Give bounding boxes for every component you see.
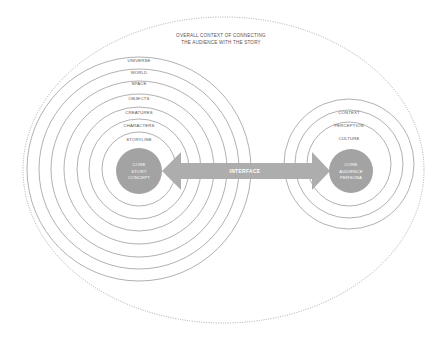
story-ring-labels: UNIVERSE WORLD SPACE OBJECTS CREATURES C… (123, 58, 154, 142)
core-audience-line-2: AUDIENCE (339, 169, 362, 174)
label-storyline: STORYLINE (126, 137, 152, 142)
story-audience-diagram: OVERALL CONTEXT OF CONNECTING THE AUDIEN… (0, 0, 444, 338)
title-line-1: OVERALL CONTEXT OF CONNECTING (176, 33, 266, 38)
label-perception: PERCEPTION (334, 123, 363, 128)
label-world: WORLD (131, 70, 148, 75)
label-creatures: CREATURES (125, 110, 153, 115)
core-story-line-1: CORE (132, 162, 145, 167)
core-story-concept: CORE STORY CONCEPT (116, 148, 162, 194)
interface-label: INTERFACE (229, 168, 260, 174)
core-story-line-2: STORY (131, 169, 146, 174)
label-characters: CHARACTERS (123, 123, 154, 128)
title-line-2: THE AUDIENCE WITH THE STORY (181, 40, 261, 45)
core-story-line-3: CONCEPT (128, 175, 150, 180)
audience-ring-labels: CONTEXT PERCEPTION CULTURE (334, 110, 363, 141)
core-audience-line-1: CORE (344, 162, 357, 167)
label-space: SPACE (132, 81, 147, 86)
interface-connector: INTERFACE (162, 152, 330, 190)
label-context: CONTEXT (338, 110, 360, 115)
core-audience-persona: CORE AUDIENCE PERSONA (329, 149, 373, 193)
label-objects: OBJECTS (129, 96, 150, 101)
label-universe: UNIVERSE (127, 58, 150, 63)
label-culture: CULTURE (338, 136, 359, 141)
diagram-title: OVERALL CONTEXT OF CONNECTING THE AUDIEN… (176, 33, 266, 45)
core-audience-line-3: PERSONA (340, 175, 362, 180)
